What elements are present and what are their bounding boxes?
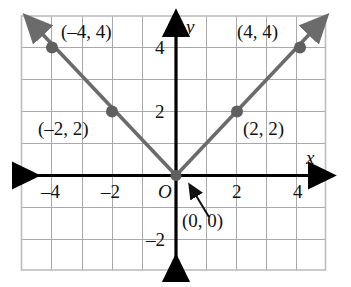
point-label-neg4-4: (–4, 4)	[61, 22, 112, 41]
origin-label: O	[158, 182, 172, 201]
x-tick-label-neg4: –4	[41, 182, 60, 201]
point-0-0	[171, 170, 182, 181]
point-label-2-2: (2, 2)	[243, 119, 284, 138]
point-label-0-0: (0, 0)	[182, 211, 223, 230]
point-2-2	[231, 106, 243, 118]
point-neg2-2	[106, 106, 118, 118]
y-axis-label: y	[186, 17, 194, 36]
point-4-4	[294, 42, 306, 54]
y-tick-label-2: 2	[155, 102, 165, 121]
point-neg4-4	[46, 42, 58, 54]
y-tick-label-neg2: –2	[146, 230, 165, 249]
point-label-neg2-2: (–2, 2)	[38, 119, 89, 138]
graph-canvas	[0, 0, 351, 287]
x-tick-label-neg2: –2	[101, 182, 120, 201]
y-tick-label-4: 4	[155, 38, 165, 57]
x-axis-label: x	[306, 148, 314, 167]
coordinate-plane-figure: (–4, 4) (–2, 2) (4, 4) (2, 2) (0, 0) –4 …	[0, 0, 351, 287]
x-tick-label-4: 4	[293, 182, 303, 201]
point-label-4-4: (4, 4)	[237, 22, 278, 41]
x-tick-label-2: 2	[232, 182, 242, 201]
